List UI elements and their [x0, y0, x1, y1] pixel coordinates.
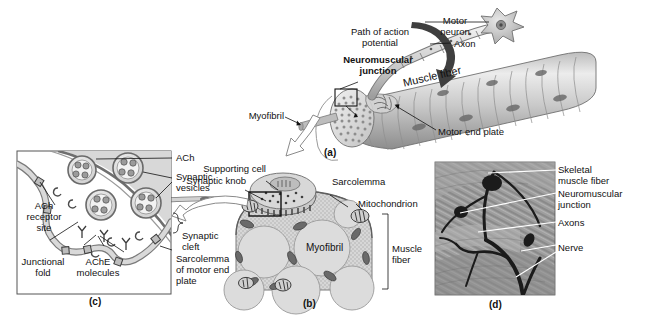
label-myofibril-a: Myofibril — [232, 110, 284, 121]
label-motor-end-plate: Motor end plate — [438, 126, 504, 137]
panel-d-micrograph — [435, 162, 556, 296]
label-mitochondrion: Mitochondrion — [358, 198, 418, 209]
panel-letter-d: (d) — [489, 299, 502, 310]
panel-letter-b: (b) — [303, 298, 316, 309]
label-path-of-action-potential: Path of action potential — [330, 26, 430, 48]
label-axons: Axons — [558, 217, 584, 228]
label-sarcolemma-of-motor-end-plate: Sarcolemma of motor end plate — [176, 253, 229, 286]
label-junctional-fold: Junctional fold — [14, 256, 72, 278]
panel-letter-a: (a) — [324, 147, 336, 158]
label-neuromuscular-junction-d: Neuromuscular junction — [558, 188, 622, 210]
label-ach: ACh — [176, 152, 194, 163]
callout-arrow-a-to-b — [286, 115, 320, 156]
label-motor-neuron: Motor neuron — [425, 15, 485, 37]
label-synaptic-vesicles: Synaptic vesicles — [176, 171, 212, 193]
label-ache-molecules: AChE molecules — [72, 256, 124, 278]
label-myofibril-b: Myofibril — [306, 242, 343, 253]
label-axon: Axon — [454, 38, 476, 49]
label-ach-receptor-site: ACh receptor site — [18, 200, 70, 233]
label-nerve: Nerve — [558, 242, 583, 253]
label-skeletal-muscle-fiber: Skeletal muscle fiber — [558, 164, 609, 186]
synaptic-knob — [249, 173, 316, 216]
label-synaptic-cleft: Synaptic cleft — [182, 230, 218, 252]
label-muscle-fiber-b: Muscle fiber — [392, 243, 436, 265]
panel-letter-c: (c) — [89, 296, 101, 307]
neuromuscular-junction-figure: Path of action potential Neuromuscular j… — [0, 0, 652, 320]
label-sarcolemma-b: Sarcolemma — [332, 176, 385, 187]
